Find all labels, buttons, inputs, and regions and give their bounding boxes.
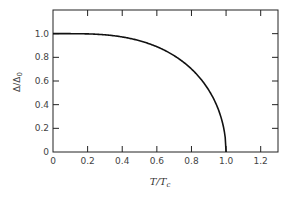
x-tick-label: 0.6 (150, 156, 165, 166)
y-tick-label: 0.2 (35, 123, 49, 133)
x-axis-title: T/Tc (150, 176, 171, 189)
x-tick-label: 0.8 (184, 156, 199, 166)
x-tick-label: 0.2 (80, 156, 94, 166)
x-tick-label: 1.2 (254, 156, 268, 166)
gap-curve (53, 34, 226, 152)
y-tick-label: 1.0 (35, 29, 50, 39)
x-tick-label: 0.4 (115, 156, 130, 166)
x-tick-label: 1.0 (219, 156, 234, 166)
plot-frame (53, 10, 278, 152)
chart: 00.20.40.60.81.01.2 00.20.40.60.81.0 T/T… (0, 0, 288, 197)
y-ticks: 00.20.40.60.81.0 (35, 29, 278, 157)
y-tick-label: 0.6 (35, 76, 50, 86)
y-tick-label: 0.8 (35, 52, 50, 62)
x-tick-label: 0 (50, 156, 56, 166)
y-axis-title: Δ/Δ0 (12, 72, 24, 92)
y-tick-label: 0 (43, 147, 49, 157)
y-tick-label: 0.4 (35, 100, 50, 110)
